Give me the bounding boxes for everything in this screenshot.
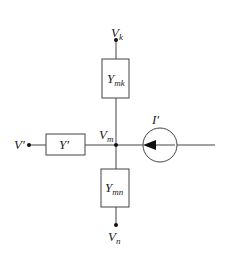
node-label-vk: Vk [111, 25, 124, 42]
circuit-diagram: Vk Ymk I′ Vm V′ Y′ Ymn Vn [0, 0, 233, 257]
yprime-label: Y′ [59, 137, 69, 152]
source-label: I′ [151, 112, 159, 127]
node-dot-vprime [27, 143, 31, 147]
node-dot-vm [114, 143, 118, 147]
node-label-vm: Vm [99, 127, 114, 144]
node-label-vn: Vn [108, 229, 121, 246]
node-dot-vn [114, 223, 118, 227]
node-label-vprime: V′ [14, 137, 25, 152]
